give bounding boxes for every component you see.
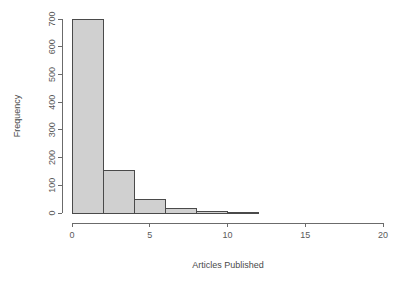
y-tick-label: 300	[47, 122, 57, 137]
y-tick-label: 500	[47, 67, 57, 82]
histogram-bar	[228, 212, 259, 213]
y-tick-label: 400	[47, 95, 57, 110]
histogram-bar	[72, 19, 103, 213]
x-tick-label: 20	[378, 230, 388, 240]
histogram-bars	[72, 19, 259, 213]
histogram-bar	[103, 171, 134, 213]
y-tick-label: 200	[47, 150, 57, 165]
x-tick-label: 10	[222, 230, 232, 240]
histogram-bar	[165, 208, 196, 213]
histogram-bar	[196, 212, 227, 213]
y-tick-label: 700	[47, 11, 57, 26]
y-tick-label: 600	[47, 39, 57, 54]
x-tick-label: 5	[147, 230, 152, 240]
x-axis: 05101520	[69, 223, 388, 240]
y-axis: 0100200300400500600700	[47, 11, 62, 215]
x-tick-label: 0	[69, 230, 74, 240]
y-axis-title: Frequency	[12, 94, 22, 137]
x-tick-label: 15	[300, 230, 310, 240]
histogram-plot-root: 0100200300400500600700 05101520 Articles…	[0, 0, 405, 282]
y-axis-ticks: 0100200300400500600700	[47, 11, 62, 215]
x-axis-ticks: 05101520	[69, 223, 388, 240]
y-tick-label: 100	[47, 178, 57, 193]
x-axis-title: Articles Published	[192, 260, 264, 270]
histogram-bar	[134, 200, 165, 213]
y-tick-label: 0	[47, 210, 57, 215]
histogram-canvas: 0100200300400500600700 05101520 Articles…	[0, 0, 405, 282]
